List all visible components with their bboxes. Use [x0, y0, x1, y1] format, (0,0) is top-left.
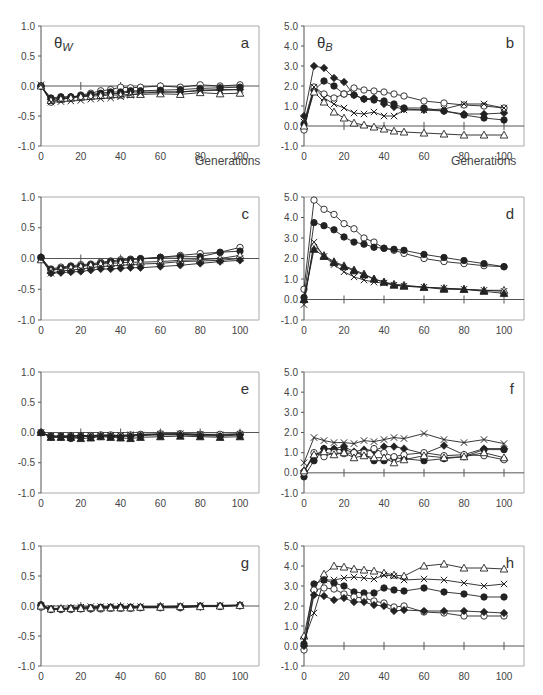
- y-tick-label: 1.0: [21, 367, 35, 378]
- marker-open-circle: [341, 91, 347, 97]
- x-tick-label: 40: [378, 325, 390, 336]
- y-tick-label: 1.0: [284, 621, 298, 632]
- panel-label: c: [242, 205, 250, 222]
- y-tick-label: -0.5: [18, 284, 36, 295]
- y-tick-label: 1.0: [21, 21, 35, 32]
- y-tick-label: 1.0: [21, 541, 35, 552]
- y-tick-label: 5.0: [284, 541, 298, 552]
- panel-label: f: [510, 380, 515, 397]
- x-tick-label: 100: [496, 671, 513, 682]
- x-tick-label: 60: [418, 151, 430, 162]
- x-tick-label: 40: [115, 498, 127, 509]
- panel-label: g: [241, 554, 249, 571]
- y-tick-label: 0.5: [21, 571, 35, 582]
- marker-filled-circle: [391, 587, 397, 593]
- x-tick-label: 60: [155, 151, 167, 162]
- y-tick-label: 0.0: [284, 467, 298, 478]
- x-tick-label: 60: [155, 498, 167, 509]
- chart-panel-c: 1.00.50.0-0.5-1.0020406080100c: [18, 192, 259, 337]
- x-tick-label: 0: [38, 325, 44, 336]
- marker-filled-circle: [331, 83, 337, 89]
- marker-open-circle: [351, 226, 357, 232]
- figure-canvas: 1.00.50.0-0.5-1.0020406080100aθW5.04.03.…: [0, 0, 543, 695]
- x-tick-label: 80: [195, 498, 207, 509]
- y-tick-label: 1.0: [21, 192, 35, 203]
- marker-filled-circle: [501, 446, 507, 452]
- marker-open-triangle: [320, 570, 328, 577]
- marker-filled-circle: [351, 239, 357, 245]
- marker-filled-circle: [391, 101, 397, 107]
- y-tick-label: 0.0: [284, 641, 298, 652]
- plot-frame: [304, 372, 524, 493]
- y-tick-label: 3.0: [284, 407, 298, 418]
- y-tick-label: 4.0: [284, 212, 298, 223]
- y-tick-label: -1.0: [18, 661, 36, 672]
- y-tick-label: 1.0: [284, 101, 298, 112]
- x-tick-label: 20: [338, 151, 350, 162]
- y-tick-label: 4.0: [284, 387, 298, 398]
- marker-open-triangle: [330, 562, 338, 569]
- x-tick-label: 80: [458, 671, 470, 682]
- y-tick-label: 5.0: [284, 367, 298, 378]
- marker-open-circle: [381, 89, 387, 95]
- marker-open-circle: [371, 445, 377, 451]
- chart-panel-d: 5.04.03.02.01.00.0-1.0020406080100d: [281, 192, 524, 337]
- marker-filled-circle: [381, 245, 387, 251]
- x-tick-label: 0: [301, 498, 307, 509]
- marker-cross: [341, 105, 347, 111]
- y-tick-label: -1.0: [281, 488, 299, 499]
- marker-open-triangle: [340, 114, 348, 121]
- y-tick-label: 1.0: [284, 447, 298, 458]
- chart-panel-f: 5.04.03.02.01.00.0-1.0020406080100f: [281, 367, 524, 510]
- x-tick-label: 0: [38, 151, 44, 162]
- series-open-circle: [301, 585, 507, 653]
- marker-filled-diamond: [440, 442, 448, 450]
- marker-filled-circle: [481, 594, 487, 600]
- y-tick-label: 0.0: [21, 81, 35, 92]
- marker-filled-circle: [461, 112, 467, 118]
- marker-filled-circle: [441, 589, 447, 595]
- figure: 1.00.50.0-0.5-1.0020406080100aθW5.04.03.…: [0, 0, 543, 695]
- x-tick-label: 20: [75, 325, 87, 336]
- x-tick-label: 40: [115, 671, 127, 682]
- x-axis-label-left: Generations: [195, 154, 260, 168]
- x-tick-label: 0: [301, 325, 307, 336]
- x-tick-label: 60: [155, 671, 167, 682]
- y-tick-label: -1.0: [18, 315, 36, 326]
- marker-filled-triangle: [370, 275, 378, 282]
- panel-title: θW: [54, 34, 74, 53]
- marker-open-circle: [341, 220, 347, 226]
- x-tick-label: 80: [195, 671, 207, 682]
- x-tick-label: 60: [155, 325, 167, 336]
- x-tick-label: 60: [418, 671, 430, 682]
- y-tick-label: -0.5: [18, 631, 36, 642]
- x-tick-label: 20: [75, 498, 87, 509]
- y-tick-label: -1.0: [281, 141, 299, 152]
- marker-cross: [311, 434, 317, 440]
- y-tick-label: 2.0: [284, 601, 298, 612]
- x-tick-label: 0: [38, 671, 44, 682]
- y-tick-label: 3.0: [284, 233, 298, 244]
- marker-filled-diamond: [320, 592, 328, 600]
- marker-open-circle: [331, 211, 337, 217]
- series-open-circle: [301, 197, 507, 293]
- y-tick-label: -0.5: [18, 457, 36, 468]
- x-tick-label: 0: [301, 151, 307, 162]
- marker-cross: [351, 274, 357, 280]
- x-tick-label: 20: [75, 671, 87, 682]
- y-tick-label: 0.0: [21, 253, 35, 264]
- x-tick-label: 40: [115, 325, 127, 336]
- marker-filled-circle: [331, 580, 337, 586]
- marker-filled-circle: [441, 254, 447, 260]
- marker-filled-circle: [481, 260, 487, 266]
- y-tick-label: 2.0: [284, 253, 298, 264]
- marker-open-circle: [321, 585, 327, 591]
- marker-filled-circle: [321, 78, 327, 84]
- marker-filled-circle: [381, 98, 387, 104]
- panel-label: d: [506, 205, 514, 222]
- panel-title: θB: [317, 34, 333, 53]
- y-tick-label: -1.0: [281, 661, 299, 672]
- marker-open-circle: [401, 93, 407, 99]
- x-tick-label: 40: [378, 671, 390, 682]
- x-tick-label: 40: [115, 151, 127, 162]
